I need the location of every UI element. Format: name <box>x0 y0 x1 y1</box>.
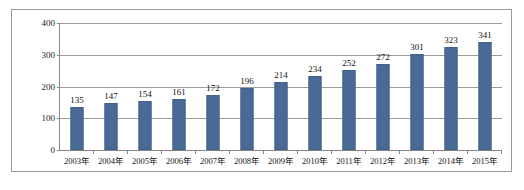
bar-group: 3012013年 <box>400 23 434 150</box>
bar-value-label: 323 <box>444 36 458 45</box>
x-axis-tick-label: 2003年 <box>64 157 90 166</box>
x-axis-tick-label: 2012年 <box>370 157 396 166</box>
bar-value-label: 172 <box>206 84 220 93</box>
bar[interactable] <box>71 107 84 150</box>
bar-value-label: 214 <box>274 71 288 80</box>
x-axis-tick-label: 2011年 <box>336 157 362 166</box>
bar[interactable] <box>343 70 356 150</box>
bar[interactable] <box>241 88 254 150</box>
x-axis-tick-mark <box>331 150 332 154</box>
bar-group: 1612006年 <box>162 23 196 150</box>
bar-group: 2342010年 <box>298 23 332 150</box>
bar[interactable] <box>411 54 424 150</box>
bar[interactable] <box>445 47 458 150</box>
bar[interactable] <box>105 103 118 150</box>
bar-value-label: 234 <box>308 65 322 74</box>
chart-frame: 01002003004001352003年1472004年1542005年161… <box>11 9 512 172</box>
y-axis-tick-label: 100 <box>42 114 56 123</box>
x-axis-tick-label: 2008年 <box>234 157 260 166</box>
y-axis-tick-label: 0 <box>51 146 56 155</box>
y-axis-tick-mark <box>57 150 60 151</box>
x-axis-tick-mark <box>467 150 468 154</box>
bar-value-label: 341 <box>478 31 492 40</box>
bar[interactable] <box>139 101 152 150</box>
bar-value-label: 161 <box>172 88 186 97</box>
x-axis-tick-label: 2013年 <box>404 157 430 166</box>
x-axis-tick-mark <box>229 150 230 154</box>
bar-group: 3412015年 <box>468 23 502 150</box>
bar-value-label: 272 <box>376 53 390 62</box>
bar-group: 1352003年 <box>60 23 94 150</box>
x-axis-tick-mark <box>195 150 196 154</box>
x-axis-tick-label: 2004年 <box>98 157 124 166</box>
x-axis-tick-mark <box>501 150 502 154</box>
bar-value-label: 252 <box>342 59 356 68</box>
bar-group: 2142009年 <box>264 23 298 150</box>
x-axis-tick-mark <box>263 150 264 154</box>
bar-group: 1542005年 <box>128 23 162 150</box>
x-axis-tick-mark <box>127 150 128 154</box>
x-axis-tick-label: 2007年 <box>200 157 226 166</box>
bar[interactable] <box>377 64 390 150</box>
bar-value-label: 135 <box>70 96 84 105</box>
bar-group: 1722007年 <box>196 23 230 150</box>
bar[interactable] <box>479 42 492 150</box>
bar-value-label: 301 <box>410 43 424 52</box>
bar[interactable] <box>275 82 288 150</box>
y-axis-tick-label: 300 <box>42 50 56 59</box>
bar-group: 1472004年 <box>94 23 128 150</box>
x-axis-tick-mark <box>399 150 400 154</box>
x-axis-tick-mark <box>297 150 298 154</box>
x-axis-tick-label: 2006年 <box>166 157 192 166</box>
plot-area: 01002003004001352003年1472004年1542005年161… <box>59 23 502 151</box>
bar-group: 2722012年 <box>366 23 400 150</box>
x-axis-tick-label: 2005年 <box>132 157 158 166</box>
bar-group: 2522011年 <box>332 23 366 150</box>
bar[interactable] <box>309 76 322 150</box>
bar-value-label: 154 <box>138 90 152 99</box>
bar-value-label: 196 <box>240 77 254 86</box>
bar-value-label: 147 <box>104 92 118 101</box>
x-axis-tick-label: 2015年 <box>472 157 498 166</box>
x-axis-tick-mark <box>365 150 366 154</box>
x-axis-tick-mark <box>161 150 162 154</box>
bar-group: 1962008年 <box>230 23 264 150</box>
x-axis-tick-mark <box>433 150 434 154</box>
bar[interactable] <box>173 99 186 150</box>
x-axis-tick-label: 2014年 <box>438 157 464 166</box>
y-axis-tick-label: 200 <box>42 82 56 91</box>
x-axis-tick-mark <box>93 150 94 154</box>
x-axis-tick-label: 2009年 <box>268 157 294 166</box>
bar[interactable] <box>207 95 220 150</box>
y-axis-tick-label: 400 <box>42 19 56 28</box>
x-axis-tick-label: 2010年 <box>302 157 328 166</box>
bar-group: 3232014年 <box>434 23 468 150</box>
